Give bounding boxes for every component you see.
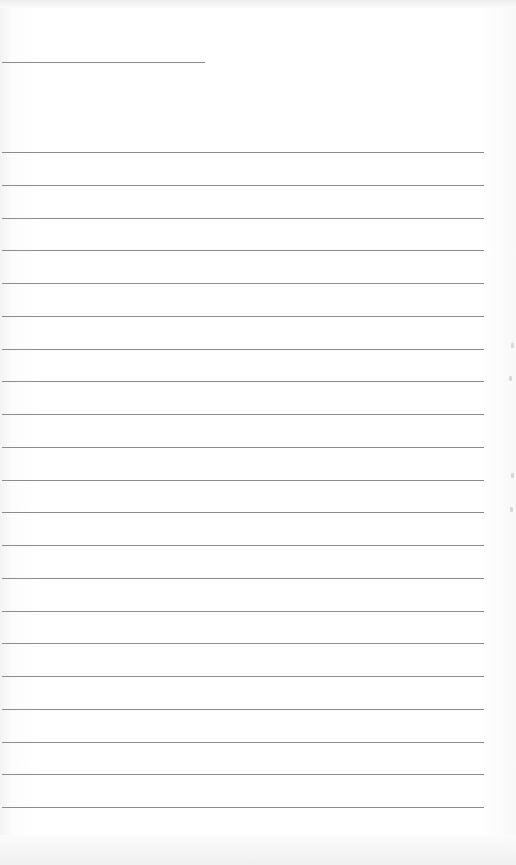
ruled-line [2,512,484,513]
paper-top-edge [0,0,516,8]
ruled-line [2,742,484,743]
ruled-line [2,709,484,710]
ruled-line [2,414,484,415]
ruled-line [2,611,484,612]
ruled-line [2,381,484,382]
ruled-line [2,545,484,546]
ruled-line [2,578,484,579]
edge-mark [510,507,513,512]
ruled-line [2,447,484,448]
ruled-line [2,349,484,350]
title-line [2,62,205,63]
ruled-line [2,774,484,775]
ruled-line [2,218,484,219]
paper-bottom-edge [0,835,516,865]
ruled-line [2,152,484,153]
edge-mark [509,376,512,381]
ruled-line [2,316,484,317]
ruled-line [2,250,484,251]
lined-paper-sheet [0,0,516,865]
edge-mark [511,343,514,348]
ruled-line [2,283,484,284]
ruled-line [2,676,484,677]
ruled-line [2,480,484,481]
ruled-line [2,807,484,808]
edge-mark [511,473,514,478]
ruled-line [2,643,484,644]
ruled-line [2,185,484,186]
